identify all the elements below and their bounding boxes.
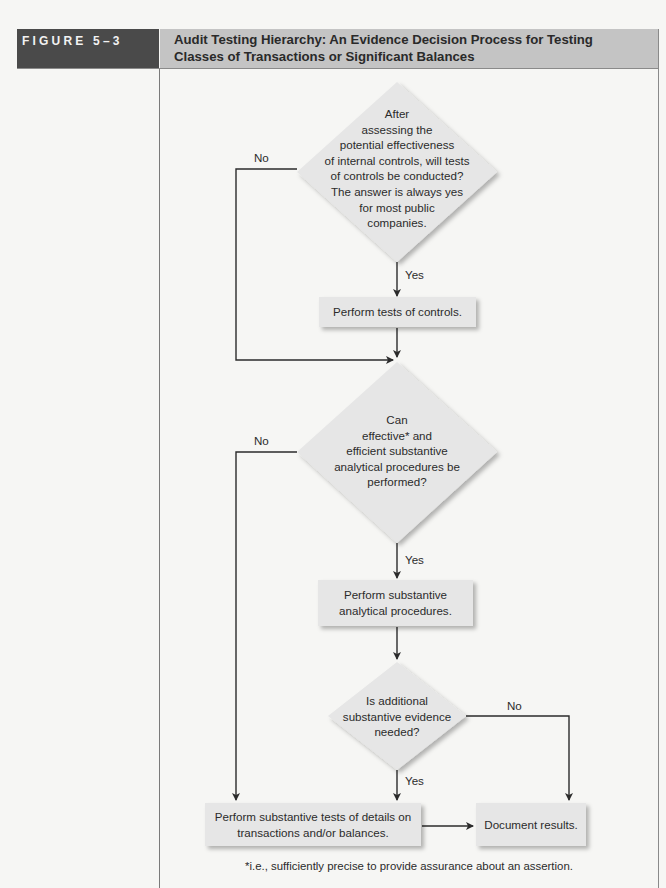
process-perform-tests-of-controls: Perform tests of controls.	[319, 297, 476, 327]
process-substantive-tests-of-details: Perform substantive tests of details on …	[205, 803, 421, 846]
decision1-no-label: No	[254, 151, 269, 164]
decision3-no-label: No	[507, 699, 522, 712]
decision2-no-connector	[236, 452, 297, 800]
decision2-no-label: No	[254, 434, 269, 447]
footnote: *i.e., sufficiently precise to provide a…	[160, 860, 658, 872]
decision2-yes-label: Yes	[405, 553, 424, 566]
decision3-yes-label: Yes	[405, 774, 424, 787]
decision2-text: Can effective* and efficient substantive…	[297, 412, 497, 490]
process-substantive-analytical-procedures: Perform substantive analytical procedure…	[318, 580, 473, 626]
decision3-no-connector	[466, 716, 569, 800]
decision3-text: Is additional substantive evidence neede…	[328, 693, 466, 740]
decision1-text: After assessing the potential effectiven…	[297, 106, 497, 231]
decision1-yes-label: Yes	[405, 268, 424, 281]
process-document-results: Document results.	[476, 803, 586, 846]
